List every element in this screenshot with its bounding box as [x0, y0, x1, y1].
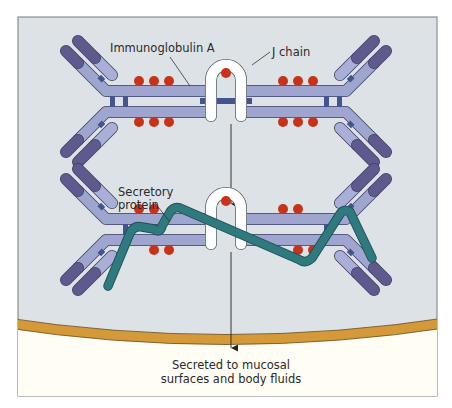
label-secretory-protein-1: Secretory — [118, 185, 174, 199]
label-immunoglobulin-a: Immunoglobulin A — [110, 41, 215, 55]
secretory-iga-diagram: Immunoglobulin A J chain Secretory prote… — [0, 0, 452, 408]
label-secreted-1: Secreted to mucosal — [172, 358, 290, 372]
label-j-chain: J chain — [271, 45, 310, 59]
label-secreted-2: surfaces and body fluids — [161, 372, 302, 386]
label-secretory-protein-2: protein — [118, 198, 159, 212]
